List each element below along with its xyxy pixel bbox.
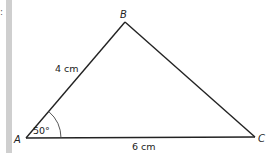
- vertex-label-b: B: [120, 9, 127, 20]
- vertex-label-c: C: [258, 133, 265, 144]
- side-ab: [26, 22, 125, 138]
- triangle-diagram: A B C 4 cm 6 cm 50°: [0, 0, 279, 153]
- angle-arc-a: [49, 112, 61, 139]
- vertex-label-a: A: [13, 134, 21, 145]
- side-ac: [26, 137, 255, 138]
- side-ac-length-label: 6 cm: [132, 141, 156, 152]
- angle-a-label: 50°: [33, 125, 50, 136]
- side-bc: [125, 22, 255, 137]
- side-ab-length-label: 4 cm: [55, 63, 79, 74]
